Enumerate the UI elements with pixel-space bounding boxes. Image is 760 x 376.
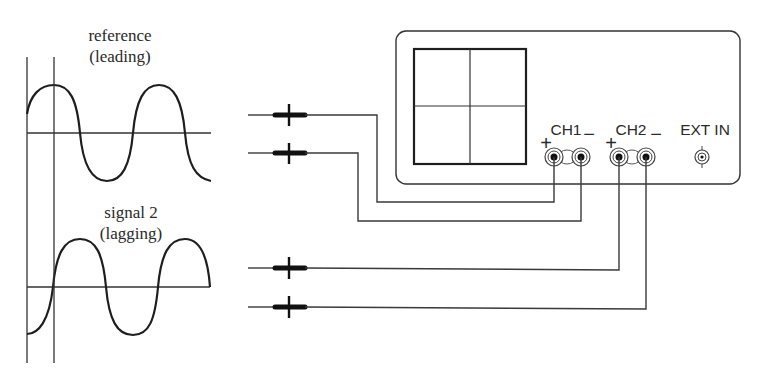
probe-4-wire-to-ch2-minus <box>305 157 646 309</box>
ch1-input: CH1 + − <box>540 121 595 166</box>
oscilloscope: CH1 + − CH2 + − <box>396 31 740 184</box>
probe-4[interactable] <box>248 157 646 318</box>
probe-3-wire-to-ch2-plus <box>305 157 619 270</box>
ch2-minus-sign: − <box>650 123 662 145</box>
ch2-label: CH2 <box>615 121 646 138</box>
probe-1-wire-to-ch1-plus <box>305 115 554 202</box>
ch1-label: CH1 <box>550 121 581 138</box>
ch2-input: CH2 + − <box>605 121 662 166</box>
signal2-label-line1: signal 2 <box>104 203 157 222</box>
ext-in-input: EXT IN <box>680 121 730 168</box>
ext-in-bnc-connector[interactable] <box>695 146 709 168</box>
reference-label-line1: reference <box>88 26 151 45</box>
phase-measurement-diagram: reference (leading) signal 2 (lagging) C… <box>0 0 760 376</box>
signal2-label-line2: (lagging) <box>100 224 162 243</box>
oscilloscope-screen <box>414 49 526 164</box>
ch1-minus-sign: − <box>583 123 595 145</box>
probe-3[interactable] <box>248 157 619 279</box>
reference-label-line2: (leading) <box>89 47 150 66</box>
ext-in-label: EXT IN <box>680 121 730 138</box>
